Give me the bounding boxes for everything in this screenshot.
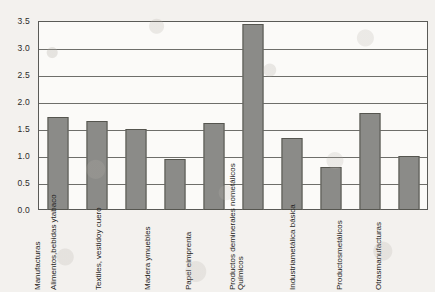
bar (125, 129, 146, 210)
x-tick-label-line: metálicos (335, 220, 344, 254)
x-tick-label-line: metálicos (228, 163, 237, 197)
x-tick-label: Alimentos,bebidas ytabaco (49, 194, 58, 290)
bar-slot (233, 21, 272, 210)
y-tick-label: 0.5 (4, 178, 30, 188)
x-tick-label-line: Alimentos, (49, 253, 58, 290)
bar-slot (311, 21, 350, 210)
x-tick-label-line: Manufacturas (33, 242, 42, 290)
y-tick-label: 0.0 (4, 205, 30, 215)
x-tick-label-line: bebidas y (49, 218, 58, 252)
bar (359, 113, 380, 210)
y-tick-label: 2.0 (4, 97, 30, 107)
bar-slot (389, 21, 428, 210)
bar-slot (272, 21, 311, 210)
x-tick-label-line: minerales no (228, 197, 237, 243)
x-tick-label-line: manufacturas (374, 222, 383, 270)
x-tick-label-line: Textiles, vestido (94, 234, 103, 290)
y-tick-label: 2.5 (4, 70, 30, 80)
bar (281, 138, 302, 210)
y-tick-label: 1.0 (4, 151, 30, 161)
x-tick-label-line: imprenta (184, 232, 193, 263)
bar (398, 156, 419, 210)
y-tick-label: 3.5 (4, 16, 30, 26)
bar (164, 159, 185, 210)
bar (86, 121, 107, 210)
x-tick-label: Madera ymuebles (143, 226, 152, 290)
bar (203, 123, 224, 210)
x-tick-label-line: Madera y (143, 257, 152, 290)
x-tick-label-slot: Químicos (233, 214, 272, 292)
bar-slot (350, 21, 389, 210)
x-tick-label: Industriametálica básica (288, 204, 297, 290)
bar (242, 24, 263, 210)
x-tick-label: Papel eimprenta (184, 232, 193, 290)
x-axis: ManufacturasAlimentos,bebidas ytabacoTex… (38, 214, 428, 292)
x-tick-label-line: y cuero (94, 207, 103, 233)
x-tick-label: Productosmetálicos (335, 220, 344, 290)
y-tick-label: 1.5 (4, 124, 30, 134)
x-tick-label: Otrasmanufacturas (374, 222, 383, 290)
x-tick-label: Productos deminerales nometálicos (228, 163, 237, 290)
x-tick-label-line: Industria (288, 259, 297, 290)
x-tick-label-line: Papel e (184, 263, 193, 290)
bar (320, 167, 341, 210)
x-tick-label-line: Productos de (228, 243, 237, 290)
x-tick-label-line: metálica básica (288, 204, 297, 259)
y-tick-label: 3.0 (4, 43, 30, 53)
x-tick-label-line: muebles (143, 226, 152, 256)
bar-slot (38, 21, 77, 210)
bar-slot (116, 21, 155, 210)
bar-chart: 3.53.02.52.01.51.00.50.0 ManufacturasAli… (0, 0, 435, 292)
x-tick-label-slot: Otrasmanufacturas (389, 214, 428, 292)
bar-slot (155, 21, 194, 210)
x-tick-label: Textiles, vestidoy cuero (94, 207, 103, 290)
bar-slot (77, 21, 116, 210)
x-tick-label-line: tabaco (49, 194, 58, 218)
x-tick-label-line: Otras (374, 270, 383, 290)
x-tick-label-line: Productos (335, 254, 344, 290)
x-tick-label: Manufacturas (33, 242, 42, 290)
